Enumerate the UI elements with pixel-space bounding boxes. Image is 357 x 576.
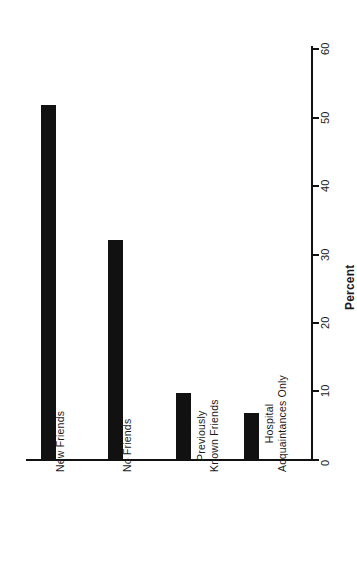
category-label-line1: Previously: [195, 399, 208, 472]
category-label-line2: Known Friends: [208, 399, 221, 472]
bar-hospital-acquaintances-only: [244, 413, 259, 459]
category-label-line1: No Friends: [121, 419, 134, 472]
category-label-line2: Acquaintances Only: [276, 375, 289, 472]
category-label-line1: New Friends: [54, 411, 67, 472]
bar-previously-known-friends: [176, 393, 191, 459]
category-label-no-friends: No Friends: [121, 419, 134, 472]
category-label-line1: Hospital: [263, 375, 276, 472]
bar-new-friends: [41, 105, 56, 459]
category-label-hospital-acquaintances-only: Hospital Acquaintances Only: [263, 375, 288, 472]
category-label-previously-known-friends: Previously Known Friends: [195, 399, 220, 472]
category-label-new-friends: New Friends: [54, 411, 67, 472]
